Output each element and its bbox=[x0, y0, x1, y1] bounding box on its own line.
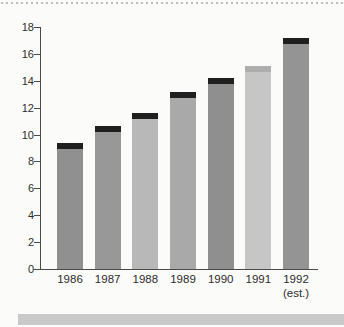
bar-cap-1988 bbox=[132, 113, 158, 119]
bar-1992 bbox=[283, 38, 309, 269]
y-tick bbox=[34, 54, 40, 55]
y-tick-label: 12 bbox=[10, 102, 34, 114]
y-tick bbox=[34, 188, 40, 189]
y-tick bbox=[34, 161, 40, 162]
x-tick-label-year: 1992 bbox=[274, 272, 318, 286]
bar-1989 bbox=[170, 92, 196, 269]
x-tick-label-note: (est.) bbox=[274, 286, 318, 300]
y-tick bbox=[34, 242, 40, 243]
bar-1986 bbox=[57, 143, 83, 269]
y-tick-label: 2 bbox=[10, 236, 34, 248]
y-tick-label: 6 bbox=[10, 182, 34, 194]
bar-chart: 0246810121416181986198719881989199019911… bbox=[0, 0, 344, 300]
bar-cap-1987 bbox=[95, 126, 121, 132]
y-tick bbox=[34, 215, 40, 216]
bar-cap-1991 bbox=[245, 66, 271, 72]
y-tick bbox=[34, 27, 40, 28]
x-tick-label-1992: 1992(est.) bbox=[274, 272, 318, 300]
y-tick bbox=[34, 81, 40, 82]
y-tick-label: 14 bbox=[10, 75, 34, 87]
y-tick bbox=[34, 135, 40, 136]
y-tick-label: 10 bbox=[10, 129, 34, 141]
page-frame: 0246810121416181986198719881989199019911… bbox=[0, 0, 344, 327]
y-tick-label: 16 bbox=[10, 48, 34, 60]
y-tick bbox=[34, 108, 40, 109]
y-tick-label: 18 bbox=[10, 21, 34, 33]
y-tick-label: 4 bbox=[10, 209, 34, 221]
y-tick-label: 0 bbox=[10, 263, 34, 275]
bar-cap-1992 bbox=[283, 38, 309, 44]
bar-cap-1989 bbox=[170, 92, 196, 98]
y-tick-label: 8 bbox=[10, 155, 34, 167]
bottom-band bbox=[18, 314, 344, 325]
bar-1991 bbox=[245, 66, 271, 269]
bar-cap-1990 bbox=[208, 78, 234, 84]
bar-1988 bbox=[132, 113, 158, 269]
x-axis-line bbox=[40, 269, 318, 270]
y-axis-line bbox=[40, 27, 41, 270]
y-tick bbox=[34, 269, 40, 270]
bar-1990 bbox=[208, 78, 234, 269]
bar-cap-1986 bbox=[57, 143, 83, 149]
bar-1987 bbox=[95, 126, 121, 269]
